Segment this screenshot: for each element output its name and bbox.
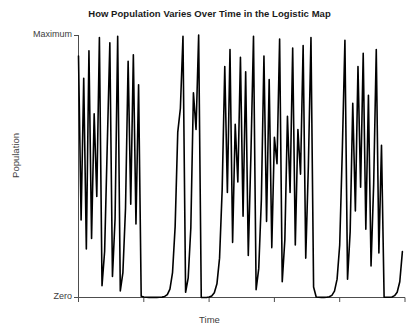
x-tick-marks <box>79 298 406 303</box>
population-series-line <box>79 35 403 298</box>
logistic-map-chart: How Population Varies Over Time in the L… <box>0 0 419 336</box>
plot-area <box>0 0 419 336</box>
y-tick-marks <box>74 36 79 298</box>
